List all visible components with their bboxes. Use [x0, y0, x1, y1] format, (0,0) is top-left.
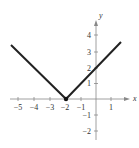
x-tick-label: −2 — [61, 103, 70, 112]
x-tick-label: −5 — [14, 103, 23, 112]
x-tick-labels: −5 −4 −3 −2 −1 1 — [14, 103, 113, 112]
y-tick-label: 3 — [87, 48, 91, 57]
vertex-point — [64, 97, 68, 101]
function-curve — [11, 42, 121, 99]
y-axis-arrow-icon — [94, 20, 98, 26]
graph-plot: −5 −4 −3 −2 −1 1 4 3 2 1 −1 −2 x y — [0, 0, 139, 148]
y-axis — [94, 20, 98, 140]
y-tick-label: −2 — [82, 127, 91, 136]
y-axis-label: y — [98, 11, 103, 20]
x-axis-arrow-icon — [124, 97, 130, 101]
x-tick-label: −4 — [30, 103, 39, 112]
y-tick-label: 2 — [87, 64, 91, 73]
y-tick-labels: 4 3 2 1 −1 −2 — [82, 31, 91, 136]
y-tick-label: −1 — [82, 111, 91, 120]
x-axis — [10, 97, 130, 101]
y-tick-label: 1 — [87, 79, 91, 88]
y-tick-label: 4 — [87, 31, 91, 40]
x-axis-label: x — [132, 94, 137, 103]
x-tick-label: 1 — [109, 103, 113, 112]
x-tick-label: −3 — [46, 103, 55, 112]
